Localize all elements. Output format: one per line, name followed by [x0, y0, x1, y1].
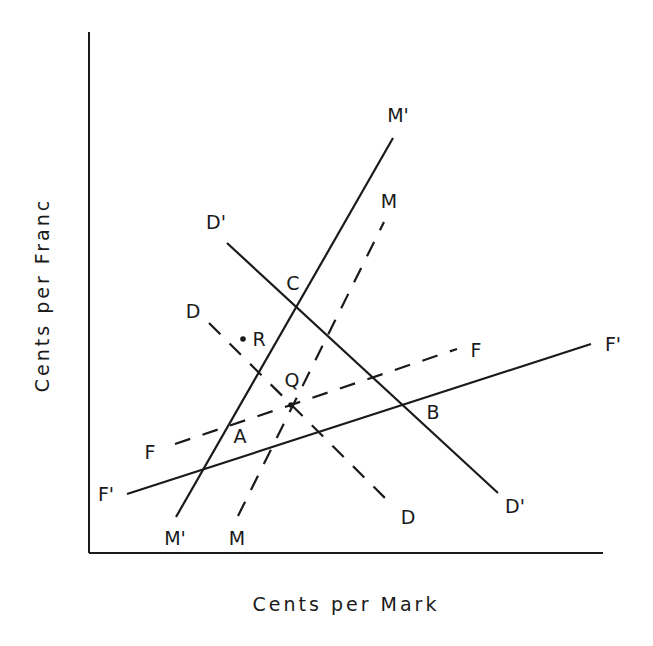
curve-label-D-prime-end: D' — [505, 495, 525, 517]
points: ABCQR — [234, 272, 440, 447]
curve-F-prime: F'F' — [98, 333, 621, 505]
point-B: B — [426, 401, 439, 423]
y-axis-label: Cents per Franc — [31, 198, 53, 392]
x-axis-label: Cents per Mark — [253, 593, 440, 615]
curve-D: DD — [186, 300, 416, 528]
solid-line-M-prime — [176, 138, 393, 517]
curve-label-F-prime-start: F' — [98, 483, 114, 505]
curves: M'M'MMD'D'DDF'F'FF — [98, 104, 621, 549]
point-marker-R — [240, 336, 246, 342]
curve-label-F-prime-end: F' — [605, 333, 621, 355]
axes: Cents per Mark Cents per Franc — [31, 32, 603, 615]
point-label-C: C — [286, 272, 299, 294]
point-R: R — [240, 328, 265, 350]
curve-label-D-prime-start: D' — [206, 211, 226, 233]
curve-label-M-end: M — [381, 190, 397, 212]
curve-label-M-prime-end: M' — [387, 104, 409, 126]
curve-M-prime: M'M' — [164, 104, 409, 549]
point-label-R: R — [252, 328, 265, 350]
point-C: C — [286, 272, 299, 294]
point-label-B: B — [426, 401, 439, 423]
point-marker-Q — [288, 402, 294, 408]
curve-label-F-start: F — [145, 441, 156, 463]
point-label-Q: Q — [285, 369, 300, 391]
curve-label-D-end: D — [401, 506, 416, 528]
curve-label-M-prime-start: M' — [164, 527, 186, 549]
point-label-A: A — [234, 425, 247, 447]
diagram-svg: Cents per Mark Cents per Franc M'M'MMD'D… — [0, 0, 653, 646]
curve-D-prime: D'D' — [206, 211, 525, 517]
diagram-canvas: Cents per Mark Cents per Franc M'M'MMD'D… — [0, 0, 653, 646]
curve-label-M-start: M — [229, 527, 245, 549]
curve-label-D-start: D — [186, 300, 201, 322]
point-A: A — [234, 425, 247, 447]
curve-M: MM — [229, 190, 397, 549]
curve-label-F-end: F — [471, 339, 482, 361]
